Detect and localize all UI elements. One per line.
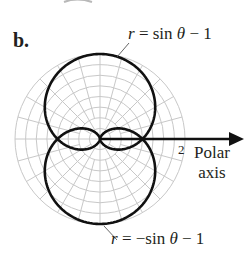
eq-top-rest: = sin <box>135 24 177 43</box>
panel-label: b. <box>13 30 29 50</box>
polar-axis-label-line2: axis <box>194 163 230 183</box>
eq-bottom-tail: − 1 <box>178 229 205 248</box>
leader-lines <box>104 43 129 240</box>
equation-label-top: r = sin θ − 1 <box>128 25 212 42</box>
eq-bottom-r: r <box>111 229 118 248</box>
radius-tick-label: 2 <box>178 143 185 156</box>
eq-bottom-rest: = −sin <box>118 229 170 248</box>
equation-label-bottom: r = −sin θ − 1 <box>111 230 204 247</box>
eq-top-tail: − 1 <box>185 24 212 43</box>
eq-top-r: r <box>128 24 135 43</box>
previous-figure-remnant <box>64 0 92 2</box>
polar-axis-label: Polar axis <box>194 143 230 183</box>
eq-top-theta: θ <box>177 24 185 43</box>
eq-bottom-theta: θ <box>169 229 177 248</box>
polar-axis-label-line1: Polar <box>194 143 230 163</box>
leader-line-top <box>117 43 129 57</box>
arrowhead-icon <box>229 132 244 146</box>
